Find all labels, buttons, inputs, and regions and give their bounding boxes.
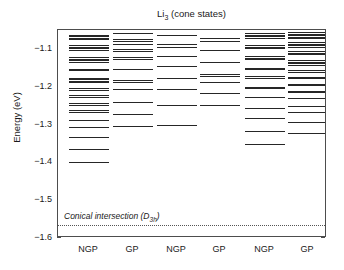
energy-level-line <box>157 89 197 90</box>
energy-level-line <box>288 98 325 99</box>
energy-level-line <box>200 82 240 83</box>
energy-level-line <box>200 74 240 75</box>
energy-level-line <box>69 62 109 63</box>
conical-intersection-line <box>58 225 325 226</box>
energy-level-line <box>200 38 240 39</box>
energy-level-line <box>200 41 240 42</box>
chart-title: Li3 (cone states) <box>57 8 326 21</box>
x-tick-label-ngp-4: NGP <box>254 244 274 254</box>
energy-level-line <box>157 125 197 126</box>
energy-level-line <box>69 127 109 128</box>
energy-level-line <box>288 72 325 73</box>
energy-level-line <box>288 133 325 134</box>
energy-level-line <box>113 57 153 58</box>
energy-level-line <box>113 51 153 52</box>
energy-level-line <box>69 149 109 150</box>
energy-level-line <box>245 108 285 109</box>
energy-level-line <box>245 69 285 70</box>
energy-level-line <box>69 112 109 113</box>
energy-level-line <box>69 162 109 163</box>
energy-level-line <box>113 114 153 115</box>
energy-level-line <box>288 92 325 93</box>
energy-level-line <box>113 39 153 40</box>
x-tick-label-gp-5: GP <box>300 244 313 254</box>
ci-label-suffix: ) <box>157 211 160 221</box>
energy-level-line <box>69 90 109 91</box>
energy-level-line <box>245 78 285 79</box>
x-tick-label-gp-3: GP <box>212 244 225 254</box>
energy-level-line <box>113 41 153 42</box>
energy-level-line <box>113 102 153 103</box>
energy-level-line <box>157 78 197 79</box>
energy-level-line <box>69 120 109 121</box>
y-tick-label: −1.3 <box>12 119 52 129</box>
energy-level-line <box>245 97 285 98</box>
energy-level-line <box>157 47 197 48</box>
ci-label-prefix: Conical intersection (D <box>64 211 150 221</box>
energy-level-line <box>113 69 153 70</box>
y-tick-mark-right <box>321 237 325 238</box>
energy-level-line <box>113 59 153 60</box>
y-tick-label: −1.4 <box>12 156 52 166</box>
energy-level-line <box>288 78 325 79</box>
energy-level-line <box>69 82 109 83</box>
energy-level-line <box>113 82 153 83</box>
x-tick-label-ngp-0: NGP <box>78 244 98 254</box>
energy-level-line <box>288 122 325 123</box>
energy-level-line <box>113 44 153 45</box>
energy-level-line <box>69 50 109 51</box>
energy-level-line <box>113 126 153 127</box>
y-tick-label: −1.1 <box>12 43 52 53</box>
y-tick-label: −1.6 <box>12 232 52 242</box>
energy-level-line <box>288 112 325 113</box>
energy-level-line <box>288 85 325 86</box>
energy-level-line <box>288 65 325 66</box>
conical-intersection-label: Conical intersection (D3h) <box>64 211 160 223</box>
y-tick-mark <box>57 237 61 238</box>
energy-level-line <box>245 38 285 39</box>
ci-label-subscript: 3h <box>150 215 157 222</box>
energy-level-line <box>157 56 197 57</box>
chart-title-suffix: (cone states) <box>168 8 226 19</box>
energy-level-line <box>200 93 240 94</box>
energy-level-line <box>69 105 109 106</box>
energy-level-line <box>288 38 325 39</box>
plot-frame: Conical intersection (D3h) <box>57 29 326 237</box>
energy-level-line <box>288 106 325 107</box>
energy-level-line <box>245 88 285 89</box>
y-tick-label: −1.2 <box>12 81 52 91</box>
energy-level-line <box>245 59 285 60</box>
energy-level-line <box>200 50 240 51</box>
energy-level-line <box>245 144 285 145</box>
energy-level-line <box>245 131 285 132</box>
energy-level-line <box>200 105 240 106</box>
energy-level-line <box>288 54 325 55</box>
energy-level-line <box>200 62 240 63</box>
x-tick-label-ngp-2: NGP <box>166 244 186 254</box>
energy-level-line <box>69 39 109 40</box>
energy-level-line <box>157 105 197 106</box>
energy-level-line <box>69 97 109 98</box>
energy-level-line <box>288 47 325 48</box>
energy-level-line <box>69 70 109 71</box>
x-tick-label-gp-1: GP <box>125 244 138 254</box>
energy-level-line <box>200 76 240 77</box>
energy-level-line <box>157 44 197 45</box>
energy-level-line <box>245 48 285 49</box>
energy-level-line <box>113 89 153 90</box>
energy-level-line <box>157 66 197 67</box>
energy-level-line <box>113 33 153 34</box>
energy-level-figure: Li3 (cone states) Energy (eV) −1.1−1.2−1… <box>0 0 344 270</box>
plot-area: Conical intersection (D3h) <box>58 30 325 236</box>
energy-level-line <box>113 49 153 50</box>
energy-level-line <box>113 80 153 81</box>
energy-level-line <box>245 118 285 119</box>
energy-level-line <box>69 137 109 138</box>
energy-level-line <box>157 35 197 36</box>
y-tick-label: −1.5 <box>12 194 52 204</box>
